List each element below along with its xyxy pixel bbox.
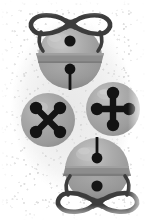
hole-top-right bbox=[54, 102, 66, 114]
illustration-canvas bbox=[0, 0, 159, 220]
jingle-bell-top bbox=[21, 8, 120, 92]
hole-top bbox=[107, 87, 119, 99]
bell-band bbox=[36, 53, 104, 63]
hole-right bbox=[123, 103, 135, 115]
button-plus-pattern bbox=[85, 81, 141, 137]
hole-bottom-left bbox=[30, 126, 42, 138]
bell-hanger-hole bbox=[91, 180, 102, 191]
hole-top-left bbox=[30, 102, 42, 114]
bell-band bbox=[63, 166, 131, 176]
hole-left bbox=[91, 103, 103, 115]
bell-hanger-hole bbox=[64, 35, 75, 46]
jingle-bell-bottom bbox=[48, 130, 147, 218]
